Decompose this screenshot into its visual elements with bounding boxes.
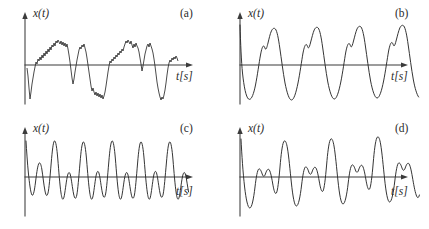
y-axis-arrowhead — [22, 12, 27, 19]
panel-c-waveform — [26, 141, 189, 199]
panel-d-y-axis-label: x(t) — [248, 123, 264, 135]
panel-c: x(t) t[s] (c) — [0, 115, 214, 229]
panel-d-axes — [237, 127, 408, 216]
panel-b-x-axis-label: t[s] — [391, 71, 408, 83]
y-axis-arrowhead — [22, 127, 27, 134]
panel-a-y-axis-label: x(t) — [33, 8, 49, 20]
panel-a-waveform — [27, 40, 178, 100]
panel-a: x(t) t[s] (a) — [0, 0, 214, 114]
y-axis-arrowhead — [237, 12, 242, 19]
panel-d-label: (d) — [395, 123, 408, 135]
panel-b-axes — [237, 12, 408, 104]
panel-b-waveform — [240, 25, 419, 100]
panel-d: x(t) t[s] (d) — [215, 115, 429, 229]
x-axis-arrowhead — [186, 174, 193, 179]
panel-b-label: (b) — [395, 8, 408, 20]
panel-c-y-axis-label: x(t) — [33, 123, 49, 135]
panel-c-label: (c) — [180, 123, 193, 135]
panel-c-x-axis-label: t[s] — [176, 186, 193, 198]
signal-classification-figure: x(t) t[s] (a) x(t) t[s] (b) — [0, 0, 429, 229]
panel-b: x(t) t[s] (b) — [215, 0, 429, 114]
panel-a-label: (a) — [180, 8, 193, 20]
panel-d-x-axis-label: t[s] — [391, 186, 408, 198]
x-axis-arrowhead — [401, 174, 408, 179]
y-axis-arrowhead — [237, 127, 242, 134]
panel-b-y-axis-label: x(t) — [248, 8, 264, 20]
panel-a-axes — [22, 12, 193, 104]
x-axis-arrowhead — [186, 62, 193, 67]
panel-a-x-axis-label: t[s] — [176, 71, 193, 83]
x-axis-arrowhead — [401, 62, 408, 67]
